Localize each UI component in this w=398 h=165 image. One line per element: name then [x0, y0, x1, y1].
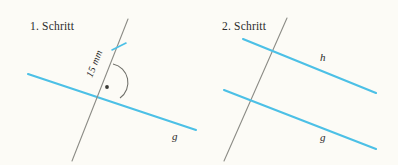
- panel-1-caption: 1. Schritt: [30, 20, 75, 32]
- panel-2-caption: 2. Schritt: [222, 20, 267, 32]
- panel-2-label-g: g: [320, 131, 326, 143]
- panel-1-label-g: g: [172, 130, 178, 142]
- figure-canvas: 1. Schritt 15 mm g 2. Schritt: [0, 0, 398, 165]
- panel-1-right-angle-dot: [105, 85, 109, 89]
- panel-2-label-h: h: [320, 51, 326, 63]
- geometry-figure: 1. Schritt 15 mm g 2. Schritt: [0, 0, 398, 165]
